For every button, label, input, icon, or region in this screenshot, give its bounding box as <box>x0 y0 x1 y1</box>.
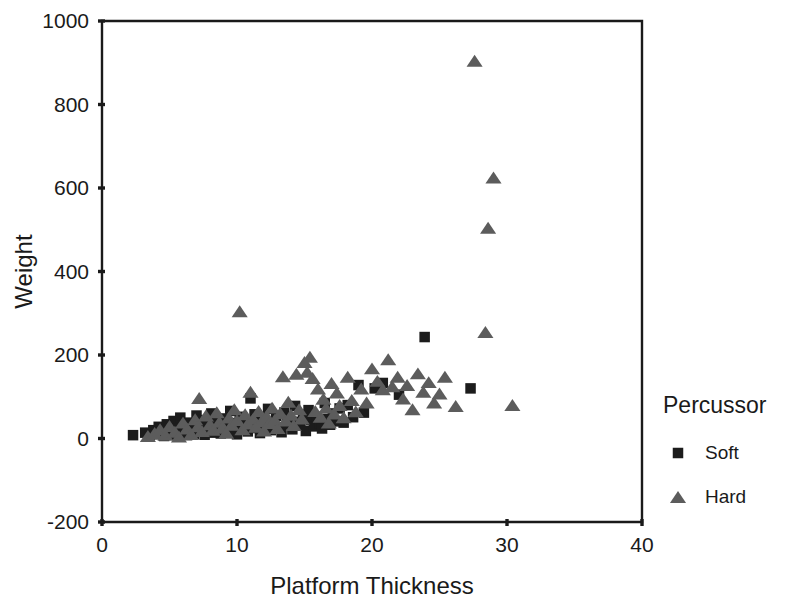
data-point-hard <box>390 371 406 383</box>
y-axis-title: Weight <box>10 234 37 309</box>
legend-item-label: Soft <box>705 442 740 463</box>
tick-marks-group <box>98 21 642 526</box>
legend: PercussorSoftHard <box>663 392 767 507</box>
data-point-hard <box>410 367 426 379</box>
x-tick-label: 30 <box>495 533 518 556</box>
x-tick-labels: 010203040 <box>96 533 654 556</box>
data-point-hard <box>359 397 375 409</box>
y-tick-label: 800 <box>54 93 89 116</box>
data-point-hard <box>242 386 258 398</box>
axis-group <box>102 21 642 522</box>
data-point-hard <box>404 403 420 415</box>
data-point-soft <box>128 430 139 441</box>
data-point-hard <box>477 326 493 338</box>
data-point-soft <box>465 383 476 394</box>
y-tick-labels: -20002004006008001000 <box>42 9 89 533</box>
series-hard <box>140 55 521 443</box>
x-tick-label: 20 <box>360 533 383 556</box>
y-tick-label: 600 <box>54 176 89 199</box>
data-point-hard <box>504 399 520 411</box>
data-point-hard <box>191 392 207 404</box>
data-point-soft <box>673 448 684 459</box>
data-point-hard <box>310 382 326 394</box>
legend-item-soft[interactable]: Soft <box>673 442 740 463</box>
y-tick-label: 1000 <box>42 9 89 32</box>
data-point-hard <box>380 353 396 365</box>
data-point-hard <box>670 491 686 503</box>
data-point-hard <box>275 370 291 382</box>
data-point-hard <box>340 371 356 383</box>
data-point-hard <box>467 55 483 67</box>
legend-item-label: Hard <box>705 486 746 507</box>
x-axis-title: Platform Thickness <box>270 572 474 599</box>
scatter-plot-figure: -20002004006008001000 010203040 WeightPl… <box>0 0 799 604</box>
plot-frame <box>102 21 642 522</box>
data-point-hard <box>480 222 496 234</box>
legend-item-hard[interactable]: Hard <box>670 486 746 507</box>
y-tick-label: 200 <box>54 343 89 366</box>
chart-canvas: -20002004006008001000 010203040 WeightPl… <box>0 0 799 604</box>
y-tick-label: 400 <box>54 260 89 283</box>
x-tick-label: 40 <box>630 533 653 556</box>
data-point-hard <box>437 371 453 383</box>
y-tick-label: 0 <box>77 427 89 450</box>
data-point-hard <box>232 305 248 317</box>
data-points-group <box>128 55 521 443</box>
x-tick-label: 0 <box>96 533 108 556</box>
data-point-hard <box>485 172 501 184</box>
y-tick-label: -200 <box>47 510 89 533</box>
data-point-hard <box>431 387 447 399</box>
data-point-soft <box>419 332 430 343</box>
data-point-hard <box>448 400 464 412</box>
legend-title: Percussor <box>663 392 767 418</box>
data-point-hard <box>364 362 380 374</box>
x-tick-label: 10 <box>225 533 248 556</box>
